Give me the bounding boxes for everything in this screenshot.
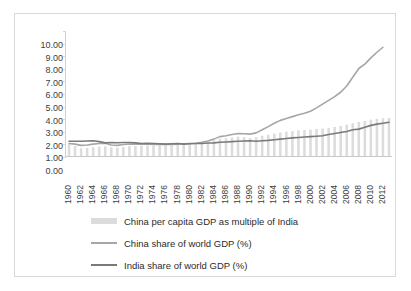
bar bbox=[188, 144, 191, 156]
x-axis-tick: 1960 bbox=[64, 185, 73, 204]
bar bbox=[243, 137, 246, 156]
bar bbox=[297, 130, 300, 156]
bar bbox=[309, 130, 312, 156]
y-axis-tick-mark bbox=[63, 157, 66, 158]
legend-swatch-fill bbox=[91, 218, 117, 224]
legend-label: China per capita GDP as multiple of Indi… bbox=[124, 216, 298, 227]
y-axis-tick: 10.00 bbox=[40, 41, 63, 50]
y-axis-tick-mark bbox=[63, 119, 66, 120]
x-axis-tick: 2000 bbox=[306, 185, 315, 204]
bar bbox=[327, 128, 330, 156]
bar bbox=[92, 147, 95, 156]
x-axis-tick: 1968 bbox=[112, 185, 121, 204]
legend-item: China per capita GDP as multiple of Indi… bbox=[15, 210, 397, 232]
legend-label: India share of world GDP (%) bbox=[124, 260, 247, 271]
y-axis-tick: 7.00 bbox=[45, 78, 63, 87]
y-axis-tick-mark bbox=[63, 44, 66, 45]
bar bbox=[207, 142, 210, 156]
y-axis-tick-mark bbox=[63, 107, 66, 108]
x-axis-tick: 2002 bbox=[318, 185, 327, 204]
bar bbox=[351, 123, 354, 156]
bar bbox=[176, 145, 179, 156]
bar-series bbox=[68, 118, 390, 156]
x-axis-tick: 1998 bbox=[294, 185, 303, 204]
legend-line-swatch-icon bbox=[91, 260, 117, 270]
bar bbox=[152, 146, 155, 156]
bar bbox=[110, 147, 113, 156]
legend-swatch-fill bbox=[91, 242, 117, 244]
bar bbox=[261, 136, 264, 156]
bar bbox=[237, 137, 240, 156]
y-axis-tick-labels: 10.009.008.007.006.005.004.003.002.001.0… bbox=[21, 38, 63, 162]
y-axis-tick-mark bbox=[63, 132, 66, 133]
bar bbox=[158, 145, 161, 156]
y-axis-tick-mark bbox=[63, 69, 66, 70]
x-axis-tick: 1992 bbox=[257, 185, 266, 204]
x-axis-tick: 1986 bbox=[221, 185, 230, 204]
x-axis-tick: 1970 bbox=[124, 185, 133, 204]
bar bbox=[339, 126, 342, 156]
y-axis-tick: 9.00 bbox=[45, 53, 63, 62]
x-axis-tick: 2012 bbox=[378, 185, 387, 204]
legend-swatch-fill bbox=[91, 264, 117, 266]
x-axis-tick: 2008 bbox=[354, 185, 363, 204]
x-axis-tick: 1982 bbox=[197, 185, 206, 204]
y-axis-tick-mark bbox=[63, 31, 66, 32]
bar bbox=[219, 139, 222, 156]
legend-item: India share of world GDP (%) bbox=[15, 254, 397, 276]
legend-label: China share of world GDP (%) bbox=[124, 238, 252, 249]
plot-axes bbox=[65, 31, 392, 157]
bar bbox=[68, 144, 71, 156]
bar bbox=[279, 132, 282, 156]
y-axis-tick: 1.00 bbox=[45, 154, 63, 163]
y-axis-tick-mark bbox=[63, 81, 66, 82]
y-axis-tick: 5.00 bbox=[45, 104, 63, 113]
bar bbox=[146, 146, 149, 156]
legend-line-swatch-icon bbox=[91, 238, 117, 248]
y-axis-tick-mark bbox=[63, 56, 66, 57]
chart-svg bbox=[66, 31, 392, 156]
bar bbox=[358, 122, 361, 156]
legend-bar-swatch-icon bbox=[91, 216, 117, 226]
bar bbox=[333, 127, 336, 156]
bar bbox=[128, 146, 131, 156]
x-axis-tick-labels: 1960196219641966196819701972197419761978… bbox=[65, 160, 392, 204]
bar bbox=[122, 147, 125, 156]
plot-container: 10.009.008.007.006.005.004.003.002.001.0… bbox=[15, 14, 397, 164]
x-axis-tick: 1964 bbox=[88, 185, 97, 204]
y-axis-tick: 2.00 bbox=[45, 141, 63, 150]
x-axis-tick: 2010 bbox=[366, 185, 375, 204]
x-axis-tick: 1972 bbox=[136, 185, 145, 204]
bar bbox=[195, 144, 198, 157]
bar bbox=[201, 142, 204, 156]
x-axis-tick: 1976 bbox=[160, 185, 169, 204]
bar bbox=[74, 146, 77, 156]
x-axis-tick: 2006 bbox=[342, 185, 351, 204]
bar bbox=[164, 146, 167, 156]
chart-frame: 10.009.008.007.006.005.004.003.002.001.0… bbox=[14, 13, 396, 277]
bar bbox=[182, 144, 185, 156]
y-axis-tick: 6.00 bbox=[45, 91, 63, 100]
bar bbox=[345, 125, 348, 156]
x-axis-tick: 1984 bbox=[209, 185, 218, 204]
bar bbox=[388, 118, 391, 156]
y-axis-tick: 0.00 bbox=[45, 167, 63, 176]
x-axis-tick: 1980 bbox=[185, 185, 194, 204]
bar bbox=[321, 129, 324, 157]
bar bbox=[267, 135, 270, 156]
bar bbox=[231, 137, 234, 156]
y-axis-tick-mark bbox=[63, 144, 66, 145]
bar bbox=[104, 146, 107, 156]
y-axis-tick: 3.00 bbox=[45, 129, 63, 138]
y-axis-tick: 8.00 bbox=[45, 66, 63, 75]
x-axis-tick: 1962 bbox=[76, 185, 85, 204]
x-axis-tick: 1994 bbox=[269, 185, 278, 204]
bar bbox=[315, 129, 318, 156]
x-axis-tick: 1978 bbox=[173, 185, 182, 204]
x-axis-tick: 1974 bbox=[148, 185, 157, 204]
bar bbox=[86, 148, 89, 156]
bar bbox=[285, 132, 288, 156]
bar bbox=[225, 138, 228, 156]
bar bbox=[291, 131, 294, 156]
bar bbox=[255, 137, 258, 156]
